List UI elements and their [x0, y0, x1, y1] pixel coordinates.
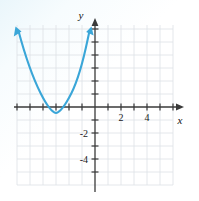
x-tick-label-4: 4 — [145, 112, 150, 123]
coordinate-plane: 2 4 -2 -4 y x — [0, 0, 199, 201]
graph-figure: 2 4 -2 -4 y x — [0, 0, 199, 201]
x-axis — [14, 104, 184, 111]
x-tick-label-2: 2 — [119, 112, 124, 123]
y-axis-label: y — [78, 9, 84, 21]
y-tick-label-neg4: -4 — [80, 154, 88, 165]
y-axis — [92, 18, 99, 192]
y-tick-label-neg2: -2 — [80, 128, 88, 139]
x-axis-label: x — [177, 114, 183, 126]
